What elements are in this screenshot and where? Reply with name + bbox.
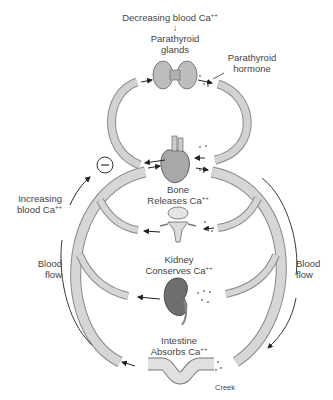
hormone-label: Parathyroid hormone (222, 52, 282, 74)
bone-line2: Releases Ca++ (138, 195, 218, 206)
parathyroid-gland-icon (153, 61, 197, 89)
increasing-sup: ++ (55, 204, 62, 210)
intestine-line2-text: Absorbs Ca (151, 346, 201, 357)
flow-arrows (122, 80, 214, 366)
trigger-sup: ++ (211, 12, 218, 18)
flow-left-line1: Blood (10, 258, 62, 269)
upper-vessel-left (111, 82, 140, 165)
flow-left-line2: flow (10, 269, 62, 280)
trigger-arrow: ↓ (165, 22, 185, 33)
kidney-sup: ++ (206, 265, 213, 271)
bone-line1: Bone (138, 184, 218, 195)
increasing-arrow (70, 177, 90, 205)
hormone-line1: Parathyroid (222, 52, 282, 63)
bone-label: Bone Releases Ca++ (138, 184, 218, 206)
calcium-dots (197, 75, 222, 371)
kidney-icon (164, 278, 187, 325)
intestine-label: Intestine Absorbs Ca++ (134, 335, 224, 357)
heart-icon (161, 136, 189, 183)
kidney-line1: Kidney (134, 254, 224, 265)
bone-vertebra-icon (160, 207, 196, 242)
intestine-sup: ++ (200, 346, 207, 352)
hormone-line2: hormone (222, 63, 282, 74)
negative-feedback-icon (97, 157, 113, 173)
parathyroid-line2: glands (140, 44, 210, 55)
upper-vessel-right (215, 84, 247, 160)
blood-flow-right-label: Blood flow (296, 258, 333, 280)
blood-flow-left-label: Blood flow (10, 258, 62, 280)
flow-right-line2: flow (296, 269, 333, 280)
kidney-line2: Conserves Ca++ (134, 265, 224, 276)
kidney-label: Kidney Conserves Ca++ (134, 254, 224, 276)
intestine-line2: Absorbs Ca++ (134, 346, 224, 357)
parathyroid-label: Parathyroid glands (140, 33, 210, 55)
increasing-label: Increasing blood Ca++ (0, 193, 62, 215)
bone-line2-text: Releases Ca (147, 195, 201, 206)
intestine-line1: Intestine (134, 335, 224, 346)
flow-right-line1: Blood (296, 258, 333, 269)
increasing-line2-text: blood Ca (17, 204, 55, 215)
increasing-line1: Increasing (0, 193, 62, 204)
parathyroid-line1: Parathyroid (140, 33, 210, 44)
bone-sup: ++ (202, 195, 209, 201)
intestine-icon (148, 364, 214, 378)
kidney-line2-text: Conserves Ca (145, 265, 205, 276)
credit-label: Creek (210, 382, 240, 393)
increasing-line2: blood Ca++ (0, 204, 62, 215)
